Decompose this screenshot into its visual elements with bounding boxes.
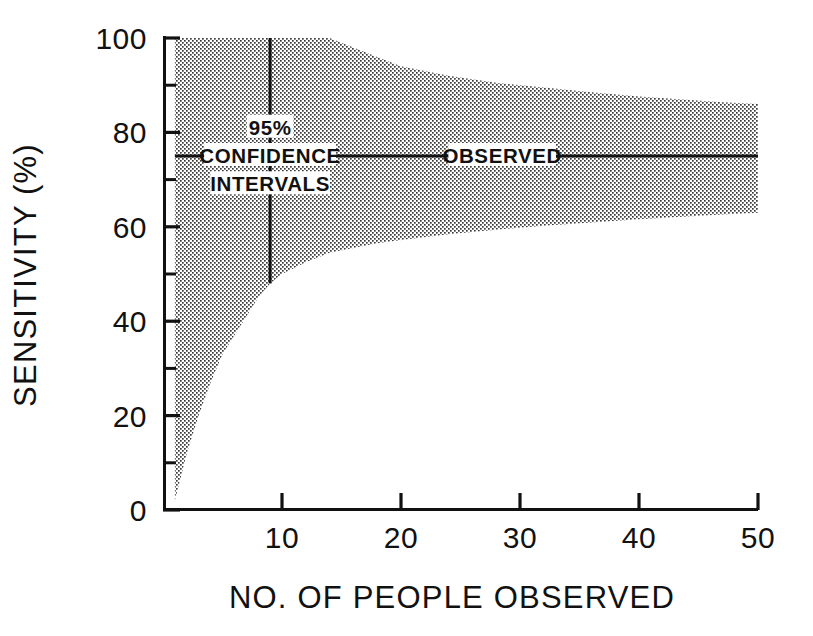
ci-label-line2: CONFIDENCE bbox=[199, 144, 341, 167]
y-tick-label-100: 100 bbox=[95, 22, 147, 55]
y-tick-label-20: 20 bbox=[113, 400, 147, 433]
x-tick-label-20: 20 bbox=[384, 521, 418, 554]
y-tick-label-40: 40 bbox=[113, 305, 147, 338]
x-axis-ticks bbox=[282, 493, 758, 510]
y-tick-label-0: 0 bbox=[130, 494, 147, 527]
x-tick-label-30: 30 bbox=[503, 521, 537, 554]
y-axis-title: SENSITIVITY (%) bbox=[8, 143, 43, 407]
x-tick-label-10: 10 bbox=[265, 521, 299, 554]
x-tick-label-50: 50 bbox=[741, 521, 775, 554]
y-axis-tick-labels: 020406080100 bbox=[95, 22, 147, 527]
x-axis-title: NO. OF PEOPLE OBSERVED bbox=[229, 580, 675, 615]
ci-label-line3: INTERVALS bbox=[210, 172, 330, 195]
sensitivity-confidence-chart: 020406080100 1020304050 95%CONFIDENCEINT… bbox=[0, 0, 813, 636]
x-axis-tick-labels: 1020304050 bbox=[265, 521, 775, 554]
observed-label: OBSERVED bbox=[442, 144, 561, 167]
y-tick-label-60: 60 bbox=[113, 211, 147, 244]
y-tick-label-80: 80 bbox=[113, 116, 147, 149]
ci-label-line1: 95% bbox=[249, 116, 292, 139]
x-tick-label-40: 40 bbox=[622, 521, 656, 554]
figure-container: 020406080100 1020304050 95%CONFIDENCEINT… bbox=[0, 0, 813, 636]
confidence-band-area bbox=[175, 38, 758, 501]
